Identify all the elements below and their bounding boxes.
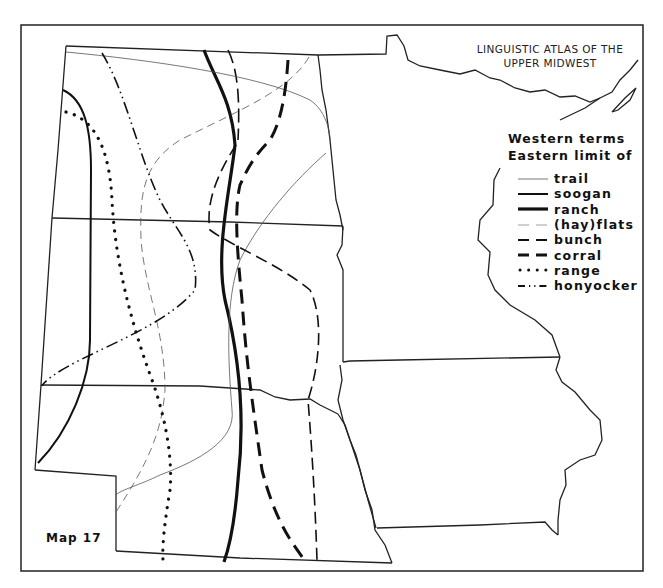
map-border	[21, 25, 643, 571]
legend: trail soogan ranch (hay)flats bunch corr…	[518, 171, 638, 293]
sd-ne-border	[41, 385, 338, 414]
legend-item-ranch: ranch	[518, 202, 638, 217]
legend-label: honyocker	[554, 278, 638, 293]
legend-label: (hay)flats	[554, 217, 634, 232]
legend-label: range	[554, 263, 601, 278]
ne-south-border	[116, 551, 392, 563]
map-canvas	[0, 0, 663, 588]
dakota-west-border	[35, 46, 66, 470]
thin-solid-line-icon	[518, 174, 550, 184]
mn-west-iowa-border	[343, 357, 560, 362]
line-soogan	[38, 90, 91, 463]
dotted-line-icon	[518, 265, 550, 275]
legend-item-trail: trail	[518, 171, 638, 186]
lake-island	[612, 88, 636, 112]
dash-dot-dot-line-icon	[518, 281, 550, 291]
map-title-line1: LINGUISTIC ATLAS OF THE	[460, 42, 640, 56]
medium-solid-line-icon	[518, 189, 550, 199]
legend-heading: Western terms Eastern limit of	[508, 130, 633, 164]
legend-heading-line2: Eastern limit of	[508, 147, 633, 164]
heavy-dashed-line-icon	[518, 250, 550, 260]
thin-dashed-line-icon	[518, 220, 550, 230]
mississippi-river	[556, 357, 602, 535]
legend-label: trail	[554, 171, 589, 186]
isogloss-lines	[38, 50, 330, 562]
iowa-south-border	[377, 522, 558, 535]
legend-label: ranch	[554, 202, 600, 217]
legend-item-hayflats: (hay)flats	[518, 217, 638, 232]
legend-item-range: range	[518, 263, 638, 278]
line-hayflats	[116, 57, 309, 512]
map-title-line2: UPPER MIDWEST	[460, 56, 640, 70]
nd-east-red-river	[318, 55, 343, 230]
map-number-label: Map 17	[46, 531, 102, 545]
legend-item-corral: corral	[518, 247, 638, 262]
nd-sd-border	[52, 218, 343, 226]
legend-item-honyocker: honyocker	[518, 278, 638, 293]
legend-label: bunch	[554, 232, 603, 247]
legend-label: corral	[554, 248, 602, 263]
legend-heading-line1: Western terms	[508, 130, 633, 147]
medium-dashed-line-icon	[518, 235, 550, 245]
legend-label: soogan	[554, 186, 612, 201]
legend-item-soogan: soogan	[518, 186, 638, 201]
map-title: LINGUISTIC ATLAS OF THE UPPER MIDWEST	[460, 42, 640, 70]
sd-east-border	[337, 226, 343, 362]
line-trail-north	[66, 52, 330, 140]
heavy-solid-line-icon	[518, 204, 550, 214]
line-corral	[237, 60, 303, 558]
legend-item-bunch: bunch	[518, 232, 638, 247]
line-trail-south	[116, 153, 326, 495]
line-ranch	[204, 50, 241, 562]
